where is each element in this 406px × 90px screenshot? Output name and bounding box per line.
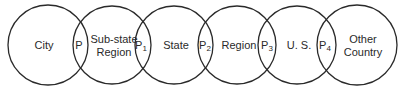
label-region: Region — [222, 39, 257, 51]
label-state: State — [163, 39, 189, 51]
diagram-canvas: CitySub-stateRegionStateRegionU. S.Other… — [0, 0, 406, 90]
overlap-label-p: P — [75, 39, 82, 51]
overlap-label-p1: P1 — [135, 39, 147, 53]
label-other-line2: Country — [344, 46, 383, 58]
label-substate-line1: Sub-state — [90, 33, 137, 45]
geographic-hierarchy-diagram: CitySub-stateRegionStateRegionU. S.Other… — [0, 0, 406, 90]
label-other-line1: Other — [349, 33, 377, 45]
label-us: U. S. — [287, 39, 311, 51]
overlap-label-p2: P2 — [199, 39, 211, 53]
label-city: City — [35, 39, 54, 51]
overlap-label-p4: P4 — [319, 39, 331, 53]
label-substate-line2: Region — [97, 46, 132, 58]
overlap-label-p3: P3 — [261, 39, 273, 53]
